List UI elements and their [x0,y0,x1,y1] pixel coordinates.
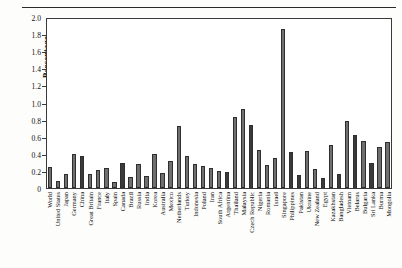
bar [377,147,381,188]
bar [160,173,164,188]
y-tick-label: 1.8 [0,31,46,40]
x-tick-label: Iran [209,191,213,265]
bar [289,152,293,188]
x-tick-label: France [95,191,99,265]
bar [353,135,357,188]
x-tick-label: South Africa [217,191,221,265]
plot-area [46,18,392,189]
x-tick-label: Vietnam [346,191,350,265]
x-tick-label: Kazakhstan [330,191,334,265]
x-tick-label: Burma [378,191,382,265]
bar [120,163,124,188]
bar [88,174,92,188]
bar [128,177,132,188]
y-tick-label: 0 [0,185,46,194]
bar [329,145,333,188]
bar [64,174,68,188]
x-tick-label: India [144,191,148,265]
x-tick-label: Germany [71,191,75,265]
y-tick-label: 1.6 [0,48,46,57]
bar [249,125,253,188]
x-axis-labels: WorldUnited StatesJapanGermanyChinaGreat… [46,191,392,265]
x-tick-label: Argentina [225,191,229,265]
bar [193,164,197,188]
bar [337,174,341,188]
bar [305,151,309,188]
x-tick-label: Ukraine [306,191,310,265]
x-tick-label: Bulgaria [362,191,366,265]
x-tick-label: Korea [152,191,156,265]
bar [177,126,181,188]
bar [273,158,277,188]
bar [385,142,389,188]
y-tick-label: 1.2 [0,82,46,91]
x-tick-label: Czech Republic [249,191,253,265]
x-tick-label: Thailand [233,191,237,265]
y-tick-label: 0.8 [0,116,46,125]
x-tick-label: Pakistan [297,191,301,265]
y-tick-label: 2.0 [0,14,46,23]
x-tick-label: Romania [265,191,269,265]
bar [96,170,100,188]
bar [313,169,317,188]
x-tick-label: Bangladesh [338,191,342,265]
x-tick-label: Australia [160,191,164,265]
x-tick-label: Netherlands [176,191,180,265]
bar [209,168,213,188]
x-tick-label: Israel [273,191,277,265]
x-tick-label: Indonesia [192,191,196,265]
x-tick-label: United States [55,191,59,265]
y-tick-label: 0.6 [0,133,46,142]
x-tick-label: China [79,191,83,265]
bar [48,167,52,188]
x-tick-label: Mexico [168,191,172,265]
bar [152,154,156,188]
x-tick-label: Singapore [281,191,285,265]
bar [241,109,245,188]
bar [80,156,84,188]
x-tick-label: Russia [136,191,140,265]
x-tick-label: Japan [63,191,67,265]
x-tick-label: Canada [120,191,124,265]
bar [345,121,349,188]
bar [136,164,140,188]
y-tick-label: 1.0 [0,99,46,108]
bar [297,175,301,188]
bar [168,161,172,188]
bar [185,156,189,188]
x-tick-label: World [47,191,51,265]
bar [321,178,325,188]
x-tick-label: Egypt [322,191,326,265]
x-tick-label: Poland [200,191,204,265]
x-tick-label: Sri Lanka [370,191,374,265]
x-tick-label: Nigeria [257,191,261,265]
y-tick-label: 1.4 [0,65,46,74]
bar [56,181,60,188]
bar [217,171,221,188]
y-tick-label: 0.2 [0,167,46,176]
bar [201,166,205,188]
bar [112,182,116,188]
bar [361,141,365,188]
x-tick-label: Malaysia [241,191,245,265]
x-tick-label: Philippines [289,191,293,265]
bar [233,117,237,188]
bar [72,154,76,188]
x-tick-label: Mongolia [386,191,390,265]
bar [265,165,269,188]
x-tick-label: Great Britain [87,191,91,265]
bar [281,29,285,188]
bar [144,176,148,188]
bar [369,163,373,188]
header-divider [22,7,396,8]
x-tick-label: Brazil [128,191,132,265]
x-tick-label: New Zealand [314,191,318,265]
x-tick-label: Spain [112,191,116,265]
x-tick-label: Turkey [184,191,188,265]
x-tick-label: Belarus [354,191,358,265]
bar [225,172,229,188]
x-tick-label: Italy [104,191,108,265]
y-tick-label: 0.4 [0,150,46,159]
bar [104,168,108,188]
bar-series [47,19,391,188]
